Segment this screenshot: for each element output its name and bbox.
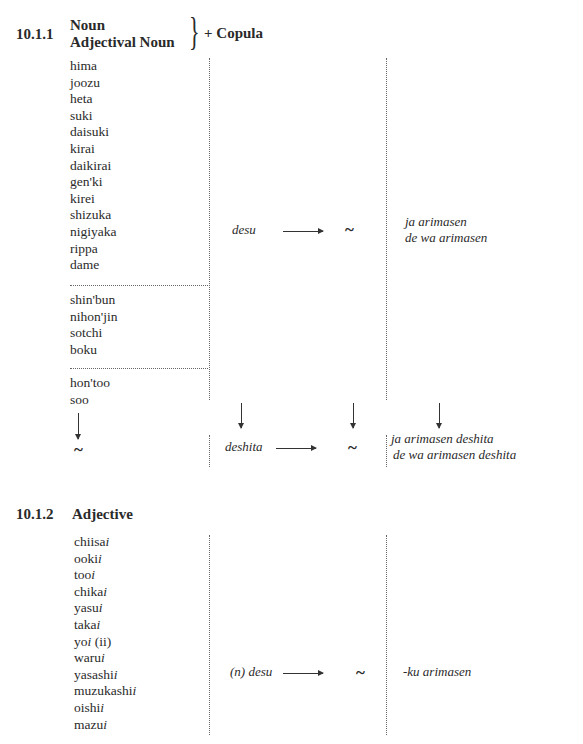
copula-past: deshita: [225, 439, 263, 455]
adjective-negative: -ku arimasen: [403, 664, 471, 680]
list-item: takai: [74, 617, 136, 634]
column-divider-left: [209, 58, 210, 400]
negative-form-1: ja arimasen: [405, 214, 467, 230]
list-item: yasashii: [74, 667, 136, 684]
column-divider-left: [209, 535, 210, 735]
column-divider-right: [386, 435, 387, 467]
dotted-separator: [70, 368, 208, 369]
list-item: daikirai: [70, 158, 117, 175]
list-item: hon'too: [70, 375, 110, 392]
list-item: warui: [74, 650, 136, 667]
right-arrow-icon: [283, 231, 323, 232]
list-item: joozu: [70, 75, 117, 92]
section-title-noun: Noun: [70, 17, 105, 34]
down-arrow-icon: [78, 413, 79, 439]
past-negative-form-1: ja arimasen deshita: [391, 431, 494, 447]
right-arrow-icon: [276, 448, 316, 449]
list-item: ookii: [74, 551, 136, 568]
dotted-separator: [70, 285, 208, 286]
tilde-symbol: ~: [345, 220, 354, 240]
section-title-adjectival-noun: Adjectival Noun: [70, 34, 175, 51]
list-item: suki: [70, 108, 117, 125]
section-number: 10.1.1: [16, 26, 54, 43]
other-list: hon'too soo: [70, 375, 110, 408]
brace-symbol: }: [189, 8, 200, 55]
list-item: shin'bun: [70, 292, 117, 309]
list-item: hima: [70, 58, 117, 75]
list-item: mazui: [74, 717, 136, 734]
down-arrow-icon: [241, 403, 242, 428]
list-item: kirei: [70, 191, 117, 208]
list-item: rippa: [70, 241, 117, 258]
list-item: sotchi: [70, 325, 117, 342]
adjective-present: (n) desu: [230, 664, 272, 680]
section-number: 10.1.2: [16, 506, 54, 523]
list-item: boku: [70, 342, 117, 359]
list-item: dame: [70, 257, 117, 274]
list-item: shizuka: [70, 207, 117, 224]
list-item: heta: [70, 91, 117, 108]
copula-present: desu: [232, 222, 256, 238]
column-divider-left: [209, 435, 210, 467]
list-item: yoi (ii): [74, 634, 136, 651]
list-item: oishii: [74, 700, 136, 717]
section-title-adjective: Adjective: [72, 506, 133, 523]
list-item: tooi: [74, 567, 136, 584]
column-divider-right: [386, 58, 387, 400]
list-item: chiisai: [74, 534, 136, 551]
list-item: soo: [70, 392, 110, 409]
down-arrow-icon: [353, 403, 354, 428]
adjectival-noun-list: hima joozu heta suki daisuki kirai daiki…: [70, 58, 117, 274]
list-item: chikai: [74, 584, 136, 601]
list-item: nihon'jin: [70, 309, 117, 326]
right-arrow-icon: [283, 673, 323, 674]
list-item: muzukashii: [74, 683, 136, 700]
tilde-symbol: ~: [74, 440, 83, 460]
noun-list: shin'bun nihon'jin sotchi boku: [70, 292, 117, 358]
section-title-copula: + Copula: [204, 25, 263, 42]
list-item: gen'ki: [70, 174, 117, 191]
adjective-list: chiisai ookii tooi chikai yasui takai yo…: [74, 534, 136, 733]
tilde-symbol: ~: [356, 663, 365, 683]
list-item: kirai: [70, 141, 117, 158]
past-negative-form-2: de wa arimasen deshita: [393, 447, 516, 463]
tilde-symbol: ~: [348, 438, 357, 458]
list-item: yasui: [74, 600, 136, 617]
list-item: nigiyaka: [70, 224, 117, 241]
list-item: daisuki: [70, 124, 117, 141]
down-arrow-icon: [439, 403, 440, 428]
column-divider-right: [386, 535, 387, 735]
negative-form-2: de wa arimasen: [405, 230, 487, 246]
